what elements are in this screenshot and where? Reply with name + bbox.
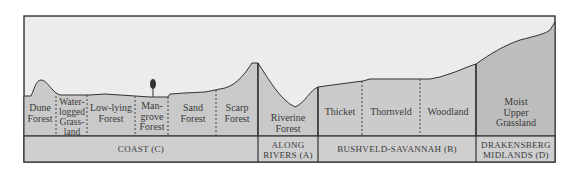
zone-label-low-lying-forest: Low-lying Forest: [90, 103, 132, 124]
zone-label-mangrove-forest: Man- grove Forest: [140, 101, 165, 133]
vegetation-profile-diagram: Dune Forest Water- logged Grass- land Lo…: [0, 0, 581, 176]
zone-label-moist-upper-grassland: Moist Upper Grassland: [496, 97, 536, 129]
region-label-bushveld-savannah: BUSHVELD-SAVANNAH (B): [337, 144, 457, 154]
zone-label-thicket: Thicket: [325, 107, 356, 118]
zone-label-waterlogged-grassland: Water- logged Grass- land: [59, 97, 85, 137]
zone-label-thornveld: Thornveld: [370, 107, 412, 118]
zone-label-scarp-forest: Scarp Forest: [225, 103, 250, 124]
zone-label-sand-forest: Sand Forest: [181, 103, 206, 124]
zone-label-dune-forest: Dune Forest: [28, 103, 53, 124]
zone-label-woodland: Woodland: [428, 107, 469, 118]
region-label-along-rivers: ALONG RIVERS (A): [263, 140, 313, 160]
zone-label-riverine-forest: Riverine Forest: [271, 113, 305, 134]
region-label-coast: COAST (C): [118, 144, 164, 154]
region-label-drakensberg-midlands: DRAKENSBERG MIDLANDS (D): [481, 140, 551, 160]
